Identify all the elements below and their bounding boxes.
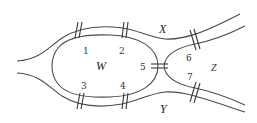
region-label-z: Z [211,62,217,73]
bridge-6 [190,29,200,50]
bridge-label-6: 6 [186,53,192,63]
bridge-label-7: 7 [187,72,193,82]
region-label-x: X [158,22,167,36]
bridge-label-5: 5 [140,62,146,72]
region-label-w: W [96,59,107,73]
bridge-label-4: 4 [120,81,126,91]
bridge-label-2: 2 [119,46,125,56]
bridge-7 [190,82,200,103]
river-bridges-diagram: 1 2 3 4 5 6 7 W X Y Z [0,0,257,123]
region-label-y: Y [160,102,168,116]
bridge-label-1: 1 [83,46,89,56]
east-bank-z [164,26,245,105]
bridge-2 [122,22,128,38]
bridge-label-3: 3 [81,81,87,91]
bridge-5 [151,64,168,68]
